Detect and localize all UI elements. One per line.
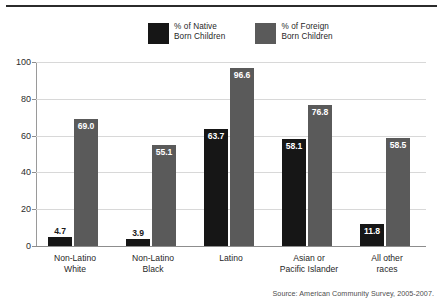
bar-value-foreign-asian-or-pacific-islander: 76.8 [312, 107, 328, 117]
bar-foreign-asian-or-pacific-islander[interactable]: 76.8 [308, 105, 332, 246]
bar-value-native-non-latino-black: 3.9 [132, 228, 144, 238]
x-label-all-other-races: All other races [348, 253, 426, 275]
bar-value-native-non-latino-white: 4.7 [54, 226, 66, 236]
bar-group-latino: 63.7 96.6 [192, 62, 270, 246]
bar-foreign-latino[interactable]: 96.6 [230, 68, 254, 246]
bar-value-foreign-latino: 96.6 [234, 70, 250, 80]
bar-value-native-asian-or-pacific-islander: 58.1 [286, 141, 302, 151]
bar-foreign-non-latino-black[interactable]: 55.1 [152, 145, 176, 246]
bar-value-native-latino: 63.7 [208, 131, 224, 141]
bar-value-foreign-non-latino-black: 55.1 [156, 147, 172, 157]
x-label-asian-or-pacific-islander: Asian or Pacific Islander [270, 253, 348, 275]
bar-value-foreign-non-latino-white: 69.0 [78, 121, 94, 131]
bar-native-non-latino-black[interactable]: 3.9 [126, 239, 150, 246]
ytick-label-80: 80 [21, 94, 31, 104]
ytick-mark-0 [32, 246, 36, 247]
bar-native-asian-or-pacific-islander[interactable]: 58.1 [282, 139, 306, 246]
bar-group-all-other-races: 11.8 58.5 [348, 62, 426, 246]
ytick-label-0: 0 [26, 241, 31, 251]
bar-group-non-latino-white: 4.7 69.0 [36, 62, 114, 246]
legend-swatch-foreign-icon [255, 23, 276, 44]
source-note: Source: American Community Survey, 2005-… [272, 289, 434, 298]
legend-swatch-native-icon [148, 23, 169, 44]
bar-value-foreign-all-other-races: 58.5 [390, 140, 406, 150]
ytick-label-40: 40 [21, 167, 31, 177]
chart-legend: % of Native Born Children % of Foreign B… [148, 22, 333, 44]
bar-native-all-other-races[interactable]: 11.8 [360, 224, 384, 246]
x-label-latino: Latino [192, 253, 270, 264]
bar-foreign-non-latino-white[interactable]: 69.0 [74, 119, 98, 246]
legend-item-foreign: % of Foreign Born Children [255, 22, 332, 44]
legend-label-foreign: % of Foreign Born Children [281, 22, 332, 43]
chart-figure: % of Native Born Children % of Foreign B… [0, 0, 443, 307]
ytick-label-100: 100 [16, 57, 31, 67]
header-divider [6, 5, 437, 7]
bar-group-asian-or-pacific-islander: 58.1 76.8 [270, 62, 348, 246]
ytick-label-60: 60 [21, 131, 31, 141]
bar-value-native-all-other-races: 11.8 [364, 226, 380, 236]
x-label-non-latino-white: Non-Latino White [36, 253, 114, 275]
bar-group-non-latino-black: 3.9 55.1 [114, 62, 192, 246]
bar-native-non-latino-white[interactable]: 4.7 [48, 237, 72, 246]
gridline-0: 0 [36, 246, 426, 247]
x-label-non-latino-black: Non-Latino Black [114, 253, 192, 275]
legend-item-native: % of Native Born Children [148, 22, 225, 44]
plot-area: 100 80 60 40 20 0 4.7 69.0 [36, 62, 426, 246]
legend-label-native: % of Native Born Children [174, 22, 225, 43]
bar-foreign-all-other-races[interactable]: 58.5 [386, 138, 410, 246]
bar-native-latino[interactable]: 63.7 [204, 129, 228, 246]
ytick-label-20: 20 [21, 204, 31, 214]
